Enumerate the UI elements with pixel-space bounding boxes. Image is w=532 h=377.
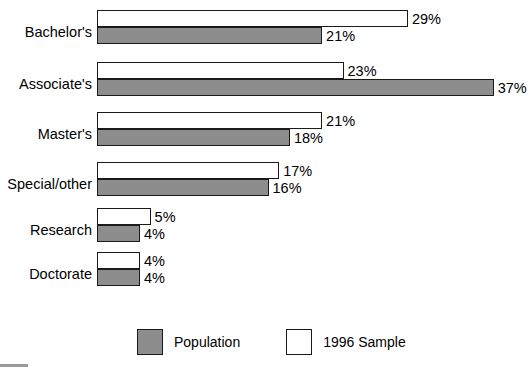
category-label: Associate's bbox=[0, 77, 92, 92]
category-label: Research bbox=[0, 223, 92, 238]
plot-area: Bachelor's29%21%Associate's23%37%Master'… bbox=[0, 0, 532, 300]
legend-entry-population: Population bbox=[137, 329, 240, 355]
bar-value-label: 21% bbox=[322, 28, 355, 43]
bar-population bbox=[97, 27, 322, 44]
bar-value-label: 37% bbox=[494, 80, 527, 95]
legend-swatch-sample bbox=[286, 329, 312, 355]
category-label: Bachelor's bbox=[0, 25, 92, 40]
legend-label-population: Population bbox=[174, 335, 240, 349]
horizontal-bar-chart: Bachelor's29%21%Associate's23%37%Master'… bbox=[0, 0, 532, 377]
bar-value-label: 23% bbox=[344, 63, 377, 78]
bar-population bbox=[97, 179, 269, 196]
chart-legend: Population 1996 Sample bbox=[137, 329, 406, 355]
bar-sample bbox=[97, 62, 344, 79]
scan-artifact-mark bbox=[0, 364, 28, 367]
bar-value-label: 18% bbox=[290, 130, 323, 145]
bar-value-label: 5% bbox=[151, 209, 176, 224]
bar-value-label: 4% bbox=[140, 270, 165, 285]
bar-population bbox=[97, 129, 290, 146]
category-label: Master's bbox=[0, 127, 92, 142]
legend-label-sample: 1996 Sample bbox=[323, 335, 406, 349]
bar-sample bbox=[97, 252, 140, 269]
legend-entry-sample: 1996 Sample bbox=[286, 329, 406, 355]
bar-value-label: 29% bbox=[408, 11, 441, 26]
bar-sample bbox=[97, 208, 151, 225]
category-label: Special/other bbox=[0, 177, 92, 192]
bar-sample bbox=[97, 112, 322, 129]
bar-sample bbox=[97, 10, 408, 27]
bar-value-label: 4% bbox=[140, 253, 165, 268]
bar-population bbox=[97, 225, 140, 242]
bar-value-label: 16% bbox=[269, 180, 302, 195]
bar-population bbox=[97, 269, 140, 286]
bar-value-label: 21% bbox=[322, 113, 355, 128]
category-label: Doctorate bbox=[0, 267, 92, 282]
bar-population bbox=[97, 79, 494, 96]
legend-swatch-population bbox=[137, 329, 163, 355]
bar-value-label: 4% bbox=[140, 226, 165, 241]
bar-sample bbox=[97, 162, 279, 179]
bar-value-label: 17% bbox=[279, 163, 312, 178]
